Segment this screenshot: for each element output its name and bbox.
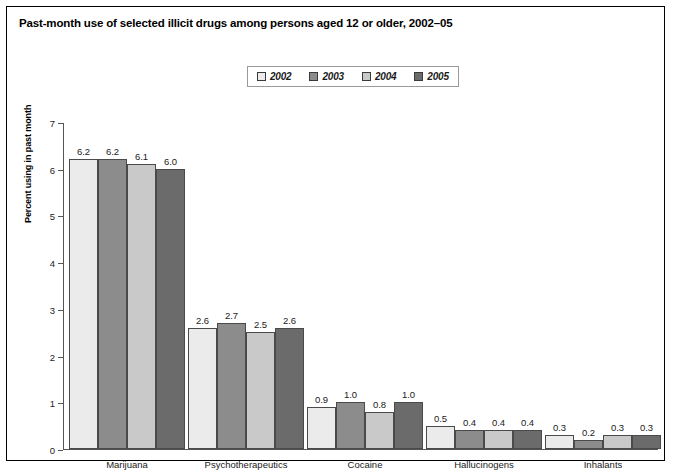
y-axis-tick-label-2: 2 xyxy=(15,351,55,362)
y-axis-tick-label-5: 5 xyxy=(15,211,55,222)
legend-swatch-icon-2005 xyxy=(414,72,423,81)
bar-inhalants-2002[interactable] xyxy=(545,435,574,449)
y-axis-tick-label-1: 1 xyxy=(15,398,55,409)
bar-group-inhalants: 0.30.20.30.3 xyxy=(545,122,661,449)
bar-value-label-inhalants-2005: 0.3 xyxy=(640,422,653,433)
bar-hallucinogens-2002[interactable] xyxy=(426,426,455,449)
legend-entry-2005[interactable]: 2005 xyxy=(414,71,448,82)
legend-label-2005: 2005 xyxy=(427,71,448,82)
bar-value-label-psychotherapeutics-2002: 2.6 xyxy=(196,315,209,326)
bar-value-label-hallucinogens-2005: 0.4 xyxy=(521,417,534,428)
x-axis-category-label-hallucinogens: Hallucinogens xyxy=(454,459,514,470)
bar-value-label-cocaine-2003: 1.0 xyxy=(344,389,357,400)
y-axis-tick-label-7: 7 xyxy=(15,118,55,129)
bar-group-cocaine: 0.91.00.81.0 xyxy=(307,122,423,449)
bar-value-label-marijuana-2003: 6.2 xyxy=(106,146,119,157)
bar-value-label-cocaine-2005: 1.0 xyxy=(402,389,415,400)
bar-hallucinogens-2003[interactable] xyxy=(455,430,484,449)
y-axis-tick-7 xyxy=(58,123,63,124)
y-axis-tick-6 xyxy=(58,170,63,171)
bar-group-hallucinogens: 0.50.40.40.4 xyxy=(426,122,542,449)
y-axis-tick-1 xyxy=(58,403,63,404)
bar-value-label-inhalants-2003: 0.2 xyxy=(582,427,595,438)
bar-value-label-psychotherapeutics-2005: 2.6 xyxy=(283,315,296,326)
plot-area: 012345676.26.26.16.0Marijuana2.62.72.52.… xyxy=(63,123,658,450)
legend-swatch-icon-2003 xyxy=(309,72,318,81)
bar-value-label-cocaine-2002: 0.9 xyxy=(315,394,328,405)
x-axis-category-label-cocaine: Cocaine xyxy=(348,459,383,470)
bar-marijuana-2003[interactable] xyxy=(98,159,127,449)
bar-group-marijuana: 6.26.26.16.0 xyxy=(69,122,185,449)
bar-psychotherapeutics-2004[interactable] xyxy=(246,332,275,449)
x-axis-category-label-psychotherapeutics: Psychotherapeutics xyxy=(205,459,288,470)
bar-value-label-inhalants-2004: 0.3 xyxy=(611,422,624,433)
bar-inhalants-2003[interactable] xyxy=(574,440,603,449)
bar-value-label-psychotherapeutics-2003: 2.7 xyxy=(225,310,238,321)
chart-legend: 2002200320042005 xyxy=(247,66,459,87)
y-axis-tick-3 xyxy=(58,310,63,311)
legend-swatch-icon-2002 xyxy=(257,72,266,81)
y-axis-tick-label-4: 4 xyxy=(15,258,55,269)
bar-value-label-hallucinogens-2004: 0.4 xyxy=(492,417,505,428)
bar-value-label-marijuana-2005: 6.0 xyxy=(164,156,177,167)
bar-value-label-marijuana-2004: 6.1 xyxy=(135,151,148,162)
bar-psychotherapeutics-2003[interactable] xyxy=(217,323,246,449)
y-axis-tick-2 xyxy=(58,357,63,358)
bar-value-label-hallucinogens-2003: 0.4 xyxy=(463,417,476,428)
chart-title: Past-month use of selected illicit drugs… xyxy=(19,17,452,29)
chart-figure-frame: Past-month use of selected illicit drugs… xyxy=(6,6,665,461)
y-axis-tick-label-0: 0 xyxy=(15,445,55,456)
legend-entry-2002[interactable]: 2002 xyxy=(257,71,291,82)
legend-entry-2003[interactable]: 2003 xyxy=(309,71,343,82)
bar-hallucinogens-2004[interactable] xyxy=(484,430,513,449)
y-axis-tick-label-6: 6 xyxy=(15,164,55,175)
bar-value-label-psychotherapeutics-2004: 2.5 xyxy=(254,319,267,330)
bar-psychotherapeutics-2002[interactable] xyxy=(188,328,217,449)
legend-swatch-icon-2004 xyxy=(362,72,371,81)
bar-value-label-marijuana-2002: 6.2 xyxy=(77,146,90,157)
legend-label-2003: 2003 xyxy=(322,71,343,82)
bar-value-label-hallucinogens-2002: 0.5 xyxy=(434,413,447,424)
x-axis-category-label-marijuana: Marijuana xyxy=(106,459,148,470)
bar-inhalants-2005[interactable] xyxy=(632,435,661,449)
y-axis-line xyxy=(63,123,64,450)
bar-psychotherapeutics-2005[interactable] xyxy=(275,328,304,449)
bar-cocaine-2004[interactable] xyxy=(365,412,394,449)
bar-value-label-cocaine-2004: 0.8 xyxy=(373,399,386,410)
y-axis-tick-4 xyxy=(58,263,63,264)
legend-label-2002: 2002 xyxy=(270,71,291,82)
legend-label-2004: 2004 xyxy=(375,71,396,82)
x-axis-baseline xyxy=(63,449,658,450)
bar-marijuana-2002[interactable] xyxy=(69,159,98,449)
x-axis-category-label-inhalants: Inhalants xyxy=(584,459,623,470)
bar-cocaine-2005[interactable] xyxy=(394,402,423,449)
bar-group-psychotherapeutics: 2.62.72.52.6 xyxy=(188,122,304,449)
bar-value-label-inhalants-2002: 0.3 xyxy=(553,422,566,433)
bar-marijuana-2004[interactable] xyxy=(127,164,156,449)
bar-marijuana-2005[interactable] xyxy=(156,169,185,449)
y-axis-tick-label-3: 3 xyxy=(15,304,55,315)
bar-cocaine-2002[interactable] xyxy=(307,407,336,449)
bar-inhalants-2004[interactable] xyxy=(603,435,632,449)
y-axis-tick-0 xyxy=(58,450,63,451)
bar-hallucinogens-2005[interactable] xyxy=(513,430,542,449)
bar-cocaine-2003[interactable] xyxy=(336,402,365,449)
legend-entry-2004[interactable]: 2004 xyxy=(362,71,396,82)
y-axis-tick-5 xyxy=(58,216,63,217)
